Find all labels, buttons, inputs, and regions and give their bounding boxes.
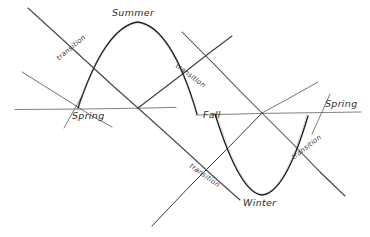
label-fall: Fall <box>203 110 221 120</box>
sketch-canvas: Summer Spring Spring Fall Winter transit… <box>0 0 370 237</box>
label-winter: Winter <box>243 198 276 208</box>
tangent-winter-cross-left-line <box>152 113 262 226</box>
tangent-winter-cross-right-line <box>262 82 318 113</box>
label-spring-left: Spring <box>72 111 104 121</box>
label-summer: Summer <box>112 8 154 18</box>
seasonal-cycle-sketch <box>0 0 370 237</box>
label-spring-right: Spring <box>325 99 357 109</box>
